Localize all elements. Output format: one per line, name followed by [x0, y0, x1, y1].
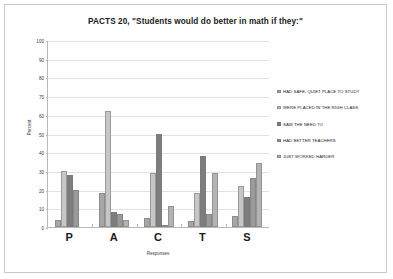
- chart-frame: PACTS 20, "Students would do better in m…: [4, 4, 387, 273]
- bar-group: [136, 41, 180, 227]
- y-axis-tick-label: 90: [39, 57, 44, 62]
- bar: [123, 220, 129, 227]
- legend-label: JUST WORKED HARDER: [283, 154, 334, 159]
- bar-group: [225, 41, 269, 227]
- bar: [256, 163, 262, 227]
- bars-layer: [48, 41, 269, 227]
- bar: [212, 173, 218, 227]
- bar-group: [48, 41, 92, 227]
- y-axis-title: Percent: [27, 98, 32, 158]
- y-axis-tick-label: 50: [39, 132, 44, 137]
- gridline: [48, 228, 269, 229]
- y-axis-tick-label: 70: [39, 95, 44, 100]
- legend-item[interactable]: WERE PLACED IN THE RIGH CLASS: [277, 105, 385, 110]
- x-axis-tick-mark: [92, 224, 93, 227]
- legend-item[interactable]: HAD SAFE, QUIET PLACE TO STUDY: [277, 89, 385, 94]
- x-axis-tick-mark: [137, 224, 138, 227]
- bar: [168, 206, 174, 227]
- legend-item[interactable]: JUST WORKED HARDER: [277, 154, 385, 159]
- y-axis-tick-mark: [46, 228, 48, 229]
- bar: [105, 111, 111, 227]
- legend-item[interactable]: HAD BETTER TEACHERS: [277, 138, 385, 143]
- y-axis-tick-label: 0: [41, 226, 44, 231]
- x-axis-title: Responses: [47, 251, 269, 256]
- bar-group: [92, 41, 136, 227]
- x-axis-tick-label: T: [180, 231, 224, 243]
- legend-swatch-icon: [277, 106, 281, 110]
- x-axis-tick-label: A: [91, 231, 135, 243]
- legend-label: WERE PLACED IN THE RIGH CLASS: [283, 105, 358, 110]
- y-axis-tick-label: 60: [39, 113, 44, 118]
- x-axis-tick-mark: [181, 224, 182, 227]
- bar: [156, 134, 162, 228]
- legend-swatch-icon: [277, 155, 281, 159]
- y-axis-tick-label: 80: [39, 76, 44, 81]
- x-axis-tick-label: P: [47, 231, 91, 243]
- bar-group: [181, 41, 225, 227]
- legend-label: HAD SAFE, QUIET PLACE TO STUDY: [283, 89, 359, 94]
- legend-label: SAW THE NEED TO: [283, 122, 323, 127]
- x-axis-tick-labels: PACTS: [47, 231, 269, 243]
- y-axis-tick-label: 10: [39, 207, 44, 212]
- legend-label: HAD BETTER TEACHERS: [283, 138, 336, 143]
- y-axis-tick-label: 40: [39, 151, 44, 156]
- legend-swatch-icon: [277, 90, 281, 94]
- plot-area: 0102030405060708090100: [47, 41, 269, 228]
- x-axis-tick-mark: [226, 224, 227, 227]
- x-axis-tick-label: C: [136, 231, 180, 243]
- legend-item[interactable]: SAW THE NEED TO: [277, 122, 385, 127]
- x-axis-tick-label: S: [225, 231, 269, 243]
- plot-wrapper: 0102030405060708090100: [47, 41, 269, 228]
- y-axis-tick-label: 100: [36, 39, 44, 44]
- y-axis-tick-label: 20: [39, 188, 44, 193]
- chart-legend: HAD SAFE, QUIET PLACE TO STUDYWERE PLACE…: [277, 89, 385, 171]
- bar: [73, 190, 79, 227]
- chart-title: PACTS 20, "Students would do better in m…: [5, 17, 386, 26]
- legend-swatch-icon: [277, 139, 281, 143]
- y-axis-tick-label: 30: [39, 169, 44, 174]
- legend-swatch-icon: [277, 122, 281, 126]
